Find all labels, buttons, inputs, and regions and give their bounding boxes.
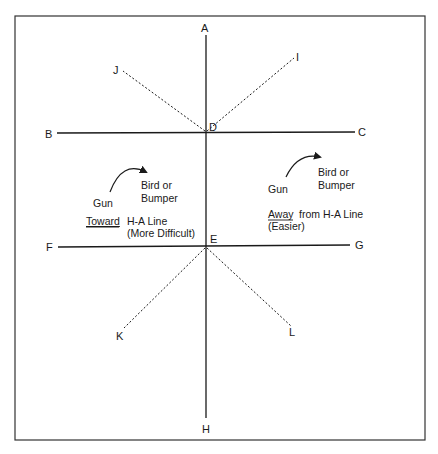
left-gun-label: Gun: [93, 197, 113, 209]
line-b-c: [57, 132, 355, 133]
left-target-line1: Bird or: [141, 179, 172, 191]
label-j: J: [113, 64, 119, 76]
label-k: K: [116, 330, 124, 342]
line-d-j: [123, 71, 205, 131]
right-difficulty: (Easier): [268, 220, 305, 232]
label-e: E: [210, 233, 217, 245]
line-d-i: [207, 58, 294, 131]
right-target-line2: Bumper: [318, 179, 355, 191]
label-c: C: [358, 126, 366, 138]
label-a: A: [201, 22, 209, 34]
right-direction-word: Away: [268, 208, 294, 220]
label-h: H: [202, 423, 210, 435]
label-b: B: [45, 128, 52, 140]
diagram-frame: [15, 16, 425, 440]
arrow-right-example-icon: [286, 156, 320, 177]
line-f-g: [58, 245, 350, 247]
right-direction-rest: from H-A Line: [299, 208, 363, 220]
left-direction-rest: H-A Line: [127, 215, 167, 227]
label-g: G: [355, 239, 364, 251]
label-f: F: [46, 241, 53, 253]
throwing-angles-diagram: A B C D E F G H I J K L Gun Bird or Bump…: [0, 0, 438, 454]
left-direction-word: Toward: [86, 215, 120, 227]
right-target-line1: Bird or: [318, 166, 349, 178]
left-target-line2: Bumper: [141, 192, 178, 204]
line-e-k: [124, 248, 205, 328]
label-l: L: [289, 326, 295, 338]
label-d: D: [209, 121, 217, 133]
label-i: I: [296, 51, 299, 63]
right-gun-label: Gun: [268, 183, 288, 195]
left-difficulty: (More Difficult): [127, 227, 195, 239]
line-e-l: [207, 248, 291, 326]
